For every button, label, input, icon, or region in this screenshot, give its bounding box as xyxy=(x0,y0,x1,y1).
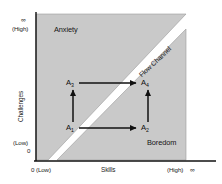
point-label-a4: A4 xyxy=(141,79,149,87)
diagram-canvas xyxy=(0,0,222,184)
x-axis-high-label: (High) xyxy=(167,167,183,173)
y-axis-origin-label: 0 xyxy=(27,148,30,154)
flow-channel-figure: ∞ (High) (Low) 0 Challenges 0 (Low) Skil… xyxy=(0,0,222,184)
point-a3-subscript: 3 xyxy=(71,82,74,88)
anxiety-zone-label: Anxiety xyxy=(54,26,78,33)
point-a4-subscript: 4 xyxy=(146,82,149,88)
boredom-zone-label: Boredom xyxy=(147,139,176,146)
y-axis-high-label: (High) xyxy=(12,26,28,32)
point-label-a1: A1 xyxy=(66,124,74,132)
x-axis-infinity-icon: ∞ xyxy=(190,167,195,174)
x-axis-title: Skills xyxy=(101,167,115,173)
point-label-a3: A3 xyxy=(66,79,74,87)
point-label-a2: A2 xyxy=(141,124,149,132)
y-axis-title: Challenges xyxy=(18,91,24,122)
point-a1-subscript: 1 xyxy=(71,127,74,133)
x-axis-low-label: 0 (Low) xyxy=(31,167,51,173)
y-axis-low-label: (Low) xyxy=(13,140,28,146)
point-a2-subscript: 2 xyxy=(146,127,149,133)
y-axis-infinity-icon: ∞ xyxy=(21,17,26,24)
